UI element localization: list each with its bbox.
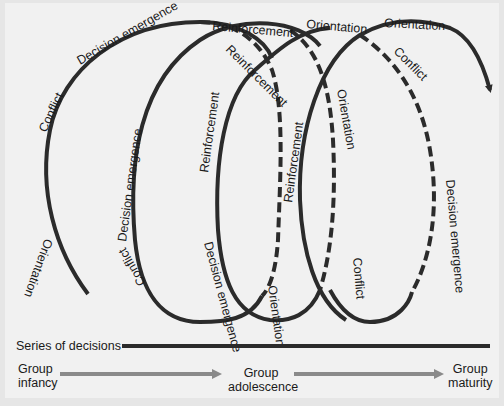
label-conflict-1: Conflict xyxy=(36,90,67,134)
stage-group-maturity: Group maturity xyxy=(448,362,492,390)
label-conflict-2: Conflict xyxy=(391,44,431,84)
label-decision-emergence-2: Decision emergence xyxy=(443,179,467,294)
label-conflict-4: Conflict xyxy=(350,257,368,300)
stage-infancy-line2: infancy xyxy=(18,376,58,390)
series-of-decisions-label: Series of decisions xyxy=(16,339,121,353)
stage-group-adolescence: Group adolescence xyxy=(228,366,294,394)
stage-maturity-line2: maturity xyxy=(448,376,492,390)
stage-maturity-line1: Group xyxy=(448,362,492,376)
label-decision-emergence-1: Decision emergence xyxy=(75,0,181,68)
stage-adolescence-line2: adolescence xyxy=(228,380,294,394)
label-orientation-5: Orientation xyxy=(334,88,358,151)
stage-infancy-line1: Group xyxy=(18,362,58,376)
stage-group-infancy: Group infancy xyxy=(18,362,58,390)
label-conflict-3: Conflict xyxy=(115,245,148,289)
label-orientation-1: Orientation xyxy=(21,237,55,299)
label-decision-emergence-3: Decision emergence xyxy=(115,128,145,243)
stage-adolescence-line1: Group xyxy=(228,366,294,380)
label-orientation-3: Orientation xyxy=(384,16,446,33)
label-orientation-4: Orientation xyxy=(265,284,287,347)
label-orientation-2: Orientation xyxy=(306,17,368,36)
diagram-frame: Orientation Conflict Decision emergence … xyxy=(0,0,504,406)
